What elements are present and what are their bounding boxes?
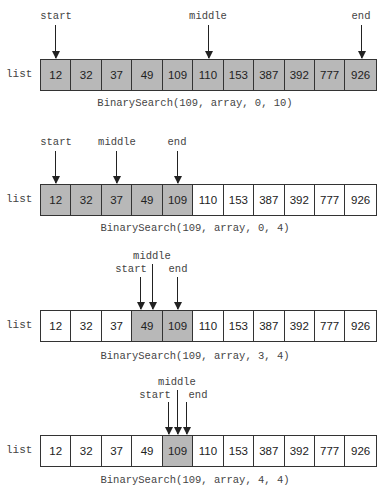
middle-label: middle (158, 376, 196, 388)
array-cell: 387 (254, 436, 284, 466)
start-arrow-icon (168, 402, 169, 434)
array-cell: 392 (285, 436, 315, 466)
array-cell: 153 (224, 436, 254, 466)
list-label: list (6, 444, 32, 456)
array-cell: 777 (315, 436, 345, 466)
array-row: 12 32 37 49 109 110 153 387 392 777 926 (40, 435, 377, 467)
array-cell: 12 (41, 436, 71, 466)
end-label: end (189, 389, 208, 401)
array-cell: 110 (193, 436, 223, 466)
array-cell: 49 (132, 436, 162, 466)
step-caption: BinarySearch(109, array, 4, 4) (0, 474, 390, 486)
array-cell: 37 (102, 436, 132, 466)
step-4: middle start end list 12 32 37 49 109 11… (0, 0, 390, 489)
array-cell: 109 (163, 436, 193, 466)
end-arrow-icon (186, 402, 187, 434)
start-label: start (139, 389, 171, 401)
array-cell: 32 (71, 436, 101, 466)
array-cell: 926 (345, 436, 375, 466)
middle-arrow-icon (177, 390, 178, 434)
